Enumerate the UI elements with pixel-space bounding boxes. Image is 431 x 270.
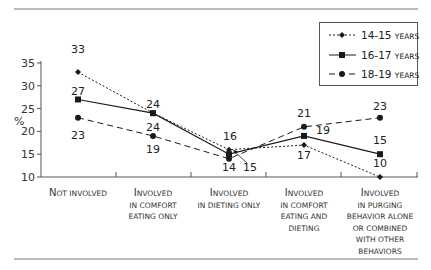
x-category-label: EATING ONLY	[128, 212, 178, 221]
x-category-label: WITH OTHER	[356, 235, 404, 244]
label-rest: NVOLVED	[288, 189, 324, 198]
x-category-label: INVOLVED	[361, 187, 400, 198]
data-point-label: 27	[71, 85, 85, 98]
x-category-label: IN COMFORT	[280, 201, 328, 210]
label-rest: NVOLVED	[364, 189, 400, 198]
y-tick-label: 35	[21, 57, 35, 70]
y-axis-title: %	[14, 115, 24, 128]
x-category-label: NOT INVOLVED	[49, 187, 107, 198]
data-point-label: 14	[222, 161, 236, 174]
data-point-label: 33	[71, 43, 85, 56]
x-category-label: IN PURGING	[358, 201, 403, 210]
series-line-1	[78, 99, 380, 154]
legend-unit: YEARS	[394, 71, 420, 80]
y-tick-label: 10	[21, 171, 35, 184]
y-tick-label: 30	[21, 80, 35, 93]
data-point-label: 15	[373, 134, 387, 147]
x-category-label: INVOLVED	[285, 187, 324, 198]
legend-range: 14-15	[361, 29, 395, 41]
line-chart: 101520253035% 33272324241916141521191723…	[0, 0, 431, 270]
data-point-label: 19	[316, 124, 330, 137]
diamond-marker	[301, 142, 307, 148]
label-rest: OT INVOLVED	[56, 189, 107, 198]
x-category-label: IN COMFORT	[129, 201, 177, 210]
label-cap: N	[49, 187, 56, 198]
y-tick-label: 15	[21, 148, 35, 161]
data-point-label: 17	[297, 149, 311, 162]
x-category-label: OR COMBINED	[353, 224, 408, 233]
circle-marker	[377, 115, 383, 121]
legend-unit: YEARS	[394, 52, 420, 61]
x-category-label: IN DIETING ONLY	[198, 201, 261, 210]
x-category-label: DIETING	[289, 224, 320, 233]
legend-circle-icon	[339, 71, 345, 77]
x-axis-labels: NOT INVOLVEDINVOLVEDIN COMFORTEATING ONL…	[49, 187, 413, 256]
legend-unit: YEARS	[394, 32, 420, 41]
x-category-label: INVOLVED	[210, 187, 249, 198]
square-marker	[301, 133, 307, 139]
label-rest: NVOLVED	[137, 189, 173, 198]
data-point-label: 19	[146, 143, 160, 156]
data-point-label: 15	[243, 161, 257, 174]
y-tick-label: 25	[21, 103, 35, 116]
circle-marker	[301, 124, 307, 130]
legend-range: 18-19	[361, 68, 395, 80]
data-point-label: 10	[373, 157, 387, 170]
circle-marker	[75, 115, 81, 121]
data-point-label: 24	[146, 121, 160, 134]
data-point-label: 24	[146, 98, 160, 111]
data-point-label: 16	[223, 130, 237, 143]
legend: 14-15 YEARS16-17 YEARS18-19 YEARS	[320, 23, 420, 86]
x-category-label: BEHAVIOR ALONE	[347, 212, 414, 221]
label-rest: NVOLVED	[213, 189, 249, 198]
x-category-label: INVOLVED	[134, 187, 173, 198]
data-point-label: 23	[373, 100, 387, 113]
legend-range: 16-17	[361, 49, 395, 61]
diamond-marker	[75, 69, 81, 75]
diamond-marker	[377, 174, 383, 180]
x-category-label: BEHAVIORS	[358, 247, 402, 256]
data-point-label: 23	[71, 129, 85, 142]
square-marker	[150, 110, 156, 116]
legend-square-icon	[339, 52, 345, 58]
data-point-label: 21	[297, 107, 311, 120]
x-category-label: EATING AND	[281, 212, 328, 221]
